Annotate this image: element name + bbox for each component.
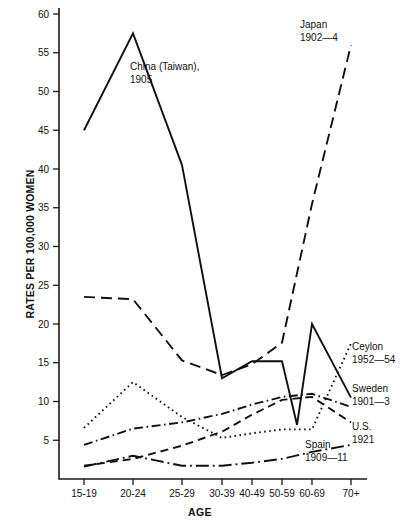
chart-figure: RATES PER 100,000 WOMEN AGE 510152025303… (0, 0, 400, 530)
series-annotation-3-line2: 1901—3 (352, 396, 390, 407)
y-tick-label: 15 (38, 357, 50, 368)
y-tick-label: 45 (38, 125, 50, 136)
x-tick-label: 70+ (343, 488, 360, 499)
y-tick-label: 5 (43, 435, 49, 446)
y-tick-label: 50 (38, 86, 50, 97)
x-tick-group: 15-1920-2425-2930-3940-4950-5960-6970+ (71, 479, 359, 499)
y-tick-label: 30 (38, 241, 50, 252)
series-annotation-2-line1: Ceylon (352, 341, 383, 352)
series-annotation-0-line1: China (Taiwan), (130, 61, 199, 72)
y-tick-label: 40 (38, 164, 50, 175)
x-tick-label: 40-49 (239, 488, 265, 499)
y-tick-label: 60 (38, 9, 50, 20)
x-tick-label: 25-29 (169, 488, 195, 499)
series-group (84, 33, 351, 466)
series-annotation-5-line1: Spain (305, 439, 331, 450)
x-tick-label: 60-69 (299, 488, 325, 499)
y-tick-group: 51015202530354045505560 (38, 9, 59, 446)
series-line-0 (84, 33, 351, 424)
series-annotation-4-line2: 1921 (352, 434, 375, 445)
x-tick-label: 20-24 (120, 488, 146, 499)
series-annotation-5-line2: 1909—11 (305, 452, 348, 463)
series-annotation-1-line2: 1902—4 (300, 32, 338, 43)
chart-svg: 51015202530354045505560 15-1920-2425-293… (0, 0, 400, 530)
x-tick-label: 15-19 (71, 488, 97, 499)
y-tick-label: 25 (38, 280, 50, 291)
series-annotation-1-line1: Japan (300, 19, 327, 30)
annotation-group: China (Taiwan),1905Japan1902—4Ceylon1952… (130, 19, 396, 463)
series-annotation-2-line2: 1952—54 (352, 354, 396, 365)
series-annotation-4-line1: U.S. (352, 421, 371, 432)
series-annotation-3-line1: Sweden (352, 383, 388, 394)
y-tick-label: 55 (38, 47, 50, 58)
y-tick-label: 20 (38, 319, 50, 330)
x-tick-label: 50-59 (269, 488, 295, 499)
x-tick-label: 30-39 (209, 488, 235, 499)
series-line-3 (84, 394, 351, 445)
series-annotation-0-line2: 1905 (130, 74, 153, 85)
y-tick-label: 35 (38, 202, 50, 213)
y-tick-label: 10 (38, 396, 50, 407)
